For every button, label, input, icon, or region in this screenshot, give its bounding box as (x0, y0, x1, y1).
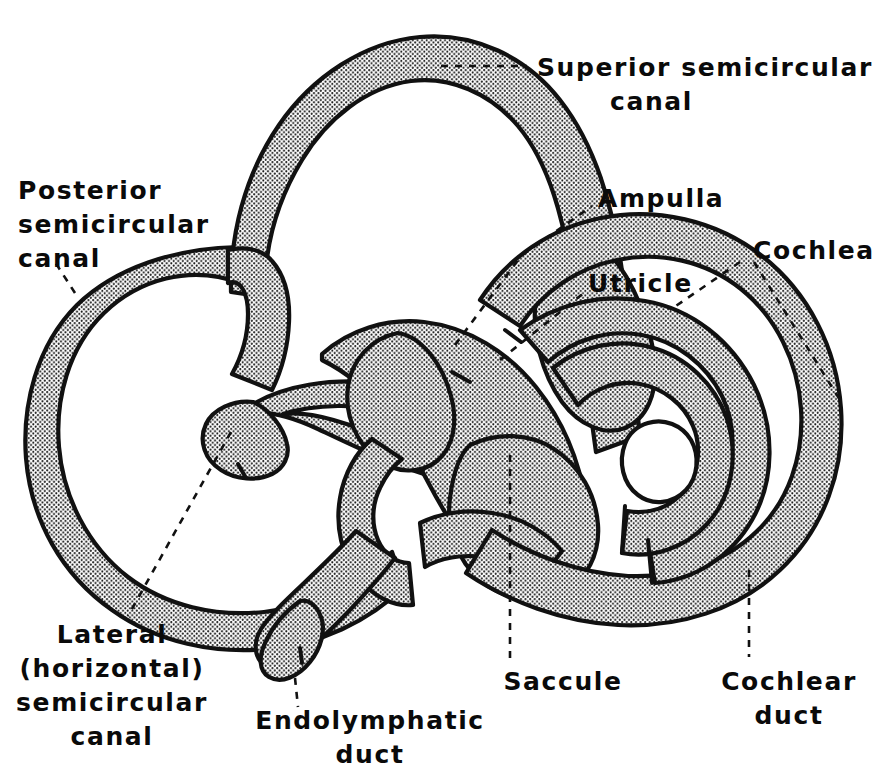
labyrinth-illustration: Superior semicircular canal Posterior se… (0, 0, 882, 777)
label-ampulla: Ampulla (598, 184, 724, 213)
label-ampulla-line1: Ampulla (598, 184, 724, 213)
label-lateral-canal-line2: (horizontal) (20, 654, 205, 683)
label-posterior-canal-line1: Posterior (18, 176, 162, 205)
label-endolymphatic-duct-line1: Endolymphatic (255, 706, 485, 735)
label-cochlea-line1: Cochlea (753, 236, 875, 265)
label-cochlea: Cochlea (753, 236, 875, 265)
label-posterior-canal-line2: semicircular (18, 210, 210, 239)
cochlea-helicotrema-hole (622, 421, 697, 502)
label-lateral-canal-line4: canal (71, 722, 154, 751)
label-superior-canal-line2: canal (610, 87, 693, 116)
label-utricle-line1: Utricle (588, 269, 693, 298)
label-endolymphatic-duct: Endolymphatic duct (255, 706, 485, 769)
label-superior-canal-line1: Superior semicircular (537, 53, 873, 82)
vestibule-crease-2 (505, 330, 521, 342)
label-posterior-canal-line3: canal (18, 244, 101, 273)
label-cochlear-duct-line2: duct (755, 701, 824, 730)
label-cochlear-duct-line1: Cochlear (721, 667, 857, 696)
label-saccule-line1: Saccule (503, 667, 622, 696)
label-endolymphatic-duct-line2: duct (336, 740, 405, 769)
canal-break-tick-bottom (300, 648, 302, 663)
label-utricle: Utricle (588, 269, 693, 298)
leader-endolymphatic-duct (295, 678, 298, 707)
label-saccule: Saccule (503, 667, 622, 696)
label-superior-semicircular-canal: Superior semicircular canal (537, 53, 873, 116)
label-lateral-canal-line3: semicircular (16, 688, 208, 717)
label-lateral-canal-line1: Lateral (57, 620, 168, 649)
label-cochlear-duct: Cochlear duct (721, 667, 857, 730)
inner-ear-diagram: Superior semicircular canal Posterior se… (0, 0, 882, 777)
common-crus-shape (228, 248, 289, 390)
